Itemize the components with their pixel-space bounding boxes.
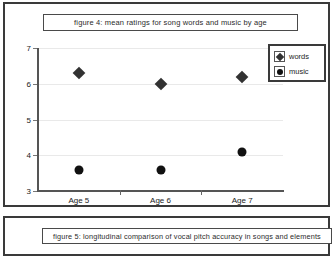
y-axis-tick-label: 6 [9,79,31,88]
y-axis-tick-label: 7 [9,44,31,53]
y-axis-tick-label: 3 [9,187,31,196]
data-point-words [154,77,167,90]
data-point-music [156,165,165,174]
figure-4-panel: figure 4: mean ratings for song words an… [3,2,330,207]
data-point-words [236,70,249,83]
data-point-music [238,147,247,156]
legend-item-words: words [274,49,321,64]
data-point-music [74,165,83,174]
data-point-words [72,67,85,80]
figure-5-panel: figure 5: longitudinal comparison of voc… [3,216,330,256]
y-axis-tick-label: 5 [9,115,31,124]
y-axis-tick-label: 4 [9,151,31,160]
diamond-marker-icon [274,51,285,62]
x-axis-tick-label: Age 6 [150,196,171,205]
data-markers [38,48,283,191]
legend-item-music: music [274,64,321,79]
figure-4-chart: 34567 Age 5Age 6Age 7 [5,4,328,205]
x-axis-tick-label: Age 7 [232,196,253,205]
legend-label-words: words [289,52,309,61]
figure-5-caption: figure 5: longitudinal comparison of voc… [42,228,332,244]
circle-marker-icon [274,66,285,77]
x-axis-tick-label: Age 5 [68,196,89,205]
chart-legend: words music [268,44,326,82]
legend-label-music: music [289,67,309,76]
